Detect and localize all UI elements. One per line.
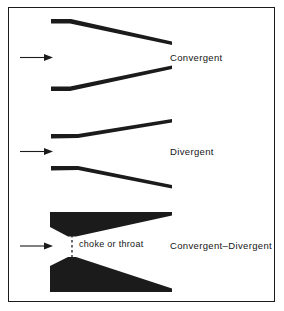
flow-arrow-convergent-divergent (20, 243, 53, 250)
nozzle-types-figure: Convergent Divergent Convergent–Divergen… (0, 0, 284, 311)
label-convergent: Convergent (170, 53, 223, 63)
divergent-lower-wall (51, 166, 172, 189)
convergent-lower-wall (51, 66, 172, 92)
convergent-upper-wall (51, 19, 172, 45)
convergent-nozzle (20, 19, 172, 91)
label-divergent: Divergent (170, 147, 214, 157)
convergent-divergent-nozzle (20, 212, 172, 292)
flow-arrow-convergent (20, 54, 53, 61)
cd-upper-wall (50, 212, 172, 237)
label-convergent-divergent: Convergent–Divergent (170, 241, 272, 251)
nozzle-diagrams (0, 0, 284, 311)
flow-arrow-divergent (20, 148, 53, 155)
cd-lower-wall (50, 257, 172, 292)
divergent-upper-wall (51, 119, 172, 139)
divergent-nozzle (20, 119, 172, 189)
label-choke-or-throat: choke or throat (79, 240, 144, 249)
